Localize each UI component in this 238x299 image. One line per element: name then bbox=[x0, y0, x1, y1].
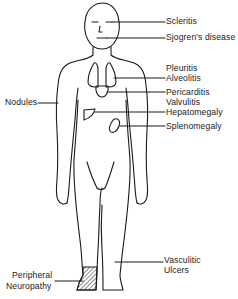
left-inner-arm bbox=[67, 88, 78, 203]
label-ulcers: Ulcers bbox=[164, 266, 189, 276]
label-neuropathy: Neuropathy bbox=[6, 282, 51, 292]
head-outline bbox=[85, 3, 120, 49]
hatched-foot bbox=[77, 267, 97, 290]
nose bbox=[99, 26, 102, 32]
label-sjogrens-disease: Sjogren's disease bbox=[166, 33, 235, 43]
left-leg-outer bbox=[74, 100, 102, 290]
label-nodules: Nodules bbox=[5, 98, 37, 108]
label-alveolitis: Alveolitis bbox=[166, 74, 201, 84]
heart bbox=[96, 86, 108, 97]
body-outline-figure bbox=[0, 0, 238, 299]
liver bbox=[84, 109, 95, 120]
body-diagram: Scleritis Sjogren's disease Pleuritis Al… bbox=[0, 0, 238, 299]
label-splenomegaly: Splenomegaly bbox=[166, 122, 222, 132]
label-scleritis: Scleritis bbox=[166, 17, 197, 27]
pelvis-outline bbox=[87, 162, 114, 190]
left-lung bbox=[88, 63, 98, 87]
right-lung bbox=[106, 63, 116, 87]
spleen bbox=[109, 119, 119, 133]
label-hepatomegaly: Hepatomegaly bbox=[166, 108, 223, 118]
label-peripheral: Peripheral bbox=[12, 271, 52, 281]
right-inner-arm bbox=[126, 88, 137, 203]
